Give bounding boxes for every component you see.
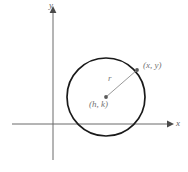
y-axis-label: y [49,1,53,10]
radius-label: r [108,74,112,83]
circle-figure: y x (x, y) (h, k) r [0,0,188,172]
x-axis-label: x [176,119,180,128]
x-axis-arrow-icon [167,121,174,128]
circle-point-label: (x, y) [143,61,161,70]
coordinate-plane-graphic [0,0,188,172]
circle-point-marker [135,68,139,72]
circle-center-label: (h, k) [89,100,108,109]
